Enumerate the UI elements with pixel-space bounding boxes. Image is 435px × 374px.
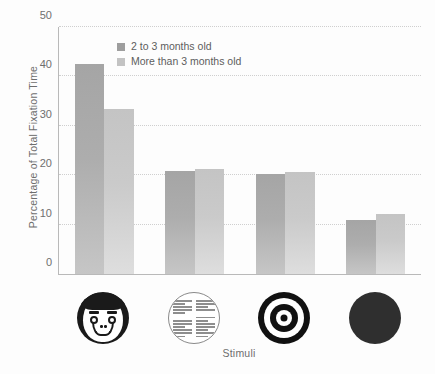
y-axis-tick-label: 50	[40, 9, 52, 21]
y-axis-tick-label: 10	[40, 207, 52, 219]
legend-swatch-icon	[117, 58, 125, 66]
y-axis-tick-label: 30	[40, 108, 52, 120]
solid-circle-icon	[349, 292, 401, 344]
bullseye-center-dot	[281, 315, 288, 322]
y-axis-title: Percentage of Total Fixation Time	[22, 0, 44, 297]
bar[interactable]	[376, 214, 405, 274]
stimulus-category-face	[77, 292, 129, 344]
bar-group	[256, 27, 315, 274]
legend-item[interactable]: 2 to 3 months old	[117, 40, 241, 53]
legend-item[interactable]: More than 3 months old	[117, 55, 241, 68]
bullseye-icon	[258, 292, 310, 344]
newsprint-column	[196, 297, 215, 339]
y-axis-tick-label: 20	[40, 157, 52, 169]
bar[interactable]	[256, 174, 285, 274]
x-axis-category-icons	[58, 292, 420, 348]
stimulus-category-solid-circle	[349, 292, 401, 344]
face-icon	[77, 292, 129, 344]
bar[interactable]	[165, 171, 194, 274]
bar[interactable]	[195, 169, 224, 274]
y-axis-tick-label: 0	[46, 256, 52, 268]
bar[interactable]	[75, 64, 104, 274]
legend-item-label: 2 to 3 months old	[131, 40, 212, 53]
legend-swatch-icon	[117, 43, 125, 51]
chart-legend: 2 to 3 months old More than 3 months old	[117, 40, 241, 70]
bar[interactable]	[346, 220, 375, 274]
newsprint-columns	[173, 297, 215, 339]
x-axis-title: Stimuli	[58, 347, 420, 359]
figure-canvas: Percentage of Total Fixation Time 010203…	[0, 0, 435, 374]
stimulus-category-bullseye	[258, 292, 310, 344]
bar[interactable]	[285, 172, 314, 274]
face-hair-shape	[81, 293, 125, 310]
newsprint-column	[173, 297, 192, 339]
newsprint-icon	[168, 292, 220, 344]
face-eyebrow-left	[89, 311, 99, 314]
stimulus-category-newsprint	[168, 292, 220, 344]
y-axis-tick-label: 40	[40, 58, 52, 70]
legend-item-label: More than 3 months old	[131, 55, 241, 68]
face-eyebrow-right	[107, 311, 117, 314]
bar-group	[346, 27, 405, 274]
bar[interactable]	[104, 109, 133, 274]
